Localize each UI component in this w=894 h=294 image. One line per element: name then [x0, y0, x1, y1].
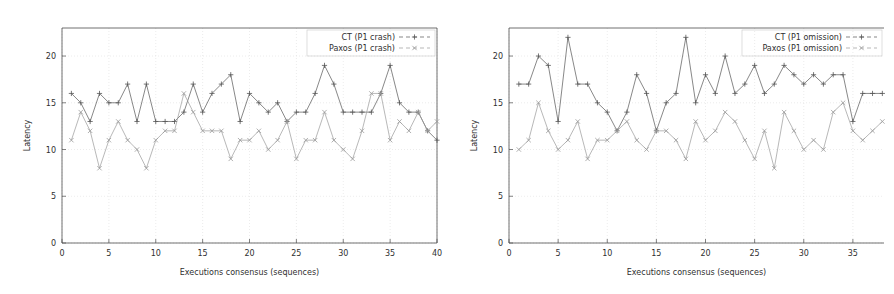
cross-marker-icon: [407, 129, 411, 133]
plus-marker-icon: [870, 91, 875, 96]
cross-marker-icon: [703, 138, 707, 142]
y-tick-label: 20: [46, 52, 56, 61]
cross-marker-icon: [350, 157, 354, 161]
x-tick-label: 10: [151, 249, 161, 258]
y-tick-label: 10: [46, 146, 56, 155]
chart-svg-left: 051015200510152025303540Executions conse…: [0, 0, 447, 294]
cross-marker-icon: [733, 119, 737, 123]
cross-marker-icon: [191, 110, 195, 114]
cross-marker-icon: [880, 119, 884, 123]
cross-marker-icon: [229, 157, 233, 161]
cross-marker-icon: [397, 119, 401, 123]
legend-label: CT (P1 crash): [341, 33, 395, 42]
data-series: [69, 91, 439, 170]
cross-marker-icon: [69, 138, 73, 142]
plus-marker-icon: [313, 91, 318, 96]
cross-marker-icon: [723, 110, 727, 114]
x-tick-label: 30: [799, 249, 809, 258]
plus-marker-icon: [840, 72, 845, 77]
plus-marker-icon: [88, 119, 93, 124]
plus-marker-icon: [634, 72, 639, 77]
plus-marker-icon: [303, 110, 308, 115]
plus-marker-icon: [153, 119, 158, 124]
plus-marker-icon: [859, 34, 864, 39]
cross-marker-icon: [811, 138, 815, 142]
x-tick-label: 25: [291, 249, 301, 258]
x-tick-label: 0: [59, 249, 64, 258]
x-tick-label: 35: [385, 249, 395, 258]
y-tick-label: 20: [493, 52, 503, 61]
plus-marker-icon: [144, 81, 149, 86]
plus-marker-icon: [341, 110, 346, 115]
cross-marker-icon: [116, 119, 120, 123]
cross-marker-icon: [257, 129, 261, 133]
plus-marker-icon: [703, 72, 708, 77]
cross-marker-icon: [831, 110, 835, 114]
x-tick-label: 15: [198, 249, 208, 258]
cross-marker-icon: [135, 147, 139, 151]
plus-marker-icon: [585, 81, 590, 86]
cross-marker-icon: [154, 138, 158, 142]
plus-marker-icon: [752, 63, 757, 68]
cross-marker-icon: [332, 138, 336, 142]
plus-marker-icon: [116, 100, 121, 105]
plus-marker-icon: [556, 119, 561, 124]
plus-marker-icon: [880, 91, 885, 96]
legend-label: Paxos (P1 omission): [762, 44, 842, 53]
cross-marker-icon: [517, 147, 521, 151]
x-tick-label: 20: [244, 249, 254, 258]
cross-marker-icon: [713, 129, 717, 133]
plus-marker-icon: [322, 63, 327, 68]
plus-marker-icon: [125, 81, 130, 86]
plus-marker-icon: [359, 110, 364, 115]
cross-marker-icon: [546, 129, 550, 133]
plus-marker-icon: [644, 91, 649, 96]
cross-marker-icon: [870, 129, 874, 133]
plus-marker-icon: [412, 34, 417, 39]
cross-marker-icon: [585, 157, 589, 161]
x-axis-label: Executions consensus (sequences): [180, 268, 319, 277]
series-line: [519, 103, 883, 168]
y-axis-label: Latency: [470, 119, 479, 151]
plus-marker-icon: [683, 35, 688, 40]
plus-marker-icon: [723, 53, 728, 58]
cross-marker-icon: [743, 138, 747, 142]
plus-marker-icon: [388, 63, 393, 68]
x-tick-label: 25: [750, 249, 760, 258]
plus-marker-icon: [565, 35, 570, 40]
plus-marker-icon: [526, 81, 531, 86]
cross-marker-icon: [851, 129, 855, 133]
chart-svg-right: 0510152005101520253035Executions consens…: [447, 0, 894, 294]
plus-marker-icon: [238, 119, 243, 124]
cross-marker-icon: [566, 138, 570, 142]
chart-panel-right: 0510152005101520253035Executions consens…: [447, 0, 894, 294]
plus-marker-icon: [350, 110, 355, 115]
legend-label: Paxos (P1 crash): [329, 44, 395, 53]
cross-marker-icon: [792, 129, 796, 133]
plus-marker-icon: [624, 110, 629, 115]
legend-label: CT (P1 omission): [775, 33, 842, 42]
y-tick-label: 0: [498, 239, 503, 248]
plus-marker-icon: [369, 110, 374, 115]
plus-marker-icon: [713, 91, 718, 96]
y-tick-label: 15: [493, 99, 503, 108]
plus-marker-icon: [850, 119, 855, 124]
y-tick-label: 5: [51, 192, 56, 201]
y-tick-label: 15: [46, 99, 56, 108]
cross-marker-icon: [684, 157, 688, 161]
plus-marker-icon: [191, 81, 196, 86]
x-tick-label: 20: [700, 249, 710, 258]
cross-marker-icon: [88, 129, 92, 133]
cross-marker-icon: [674, 138, 678, 142]
plot-frame: [62, 28, 437, 243]
plus-marker-icon: [860, 91, 865, 96]
plus-marker-icon: [163, 119, 168, 124]
cross-marker-icon: [625, 119, 629, 123]
cross-marker-icon: [841, 101, 845, 105]
x-tick-label: 5: [556, 249, 561, 258]
cross-marker-icon: [526, 138, 530, 142]
cross-marker-icon: [107, 138, 111, 142]
plus-marker-icon: [693, 100, 698, 105]
data-series: [517, 101, 885, 171]
cross-marker-icon: [635, 138, 639, 142]
